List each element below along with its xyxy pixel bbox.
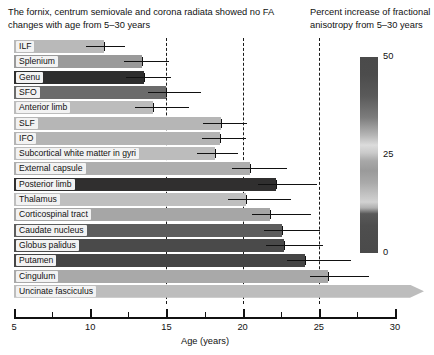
bar-label: SFO: [16, 87, 40, 98]
error-bar-cap: [142, 57, 143, 66]
x-tick-10: [90, 309, 92, 319]
error-bar: [202, 138, 246, 139]
error-bar: [197, 153, 238, 154]
x-tick-15: [166, 309, 168, 319]
error-bar-cap: [246, 195, 247, 204]
bar-row: IFO: [0, 132, 434, 145]
bar-label: Splenium: [16, 56, 58, 67]
bar-label: SLF: [16, 118, 38, 129]
error-bar-cap: [270, 210, 271, 219]
error-bar-cap: [144, 73, 145, 82]
bar-row: Thalamus: [0, 193, 434, 206]
bar-ifo: [14, 132, 220, 145]
colorbar-title: Percent increase of fractional anisotrop…: [310, 6, 432, 32]
bar-label: Putamen: [16, 255, 56, 266]
error-bar-cap: [104, 42, 105, 51]
error-bar: [266, 245, 324, 246]
bar-row: Corticospinal tract: [0, 208, 434, 221]
error-bar: [228, 199, 292, 200]
bar-label: Anterior limb: [16, 102, 70, 113]
x-minor-tick-7.5: [52, 312, 53, 319]
x-tick-label-5: 5: [11, 322, 16, 332]
bar-label: Cingulum: [16, 271, 58, 282]
bar-label: Thalamus: [16, 194, 60, 205]
bar-row: Anterior limb: [0, 101, 434, 114]
error-bar: [287, 260, 351, 261]
error-bar: [148, 92, 201, 93]
error-bar-cap: [250, 164, 251, 173]
error-bar-cap: [221, 119, 222, 128]
bar-row: Genu: [0, 71, 434, 84]
bar-label: ILF: [16, 41, 34, 52]
bar-label: External capsule: [16, 163, 86, 174]
error-bar: [86, 46, 125, 47]
bar-row: Caudate nucleus: [0, 224, 434, 237]
bar-putamen: [14, 254, 305, 267]
error-bar-cap: [166, 88, 167, 97]
bar-row: Posterior limb: [0, 178, 434, 191]
bar-label: Genu: [16, 72, 43, 83]
x-tick-label-25: 25: [314, 322, 324, 332]
bar-row: ILF: [0, 40, 434, 53]
figure-root: The fornix, centrum semiovale and corona…: [0, 0, 434, 355]
error-bar: [135, 107, 190, 108]
x-tick-20: [243, 309, 245, 319]
error-bar: [203, 123, 247, 124]
bar-label: Uncinate fasciculus: [16, 286, 96, 297]
plot-area: ILFSpleniumGenuSFOAnterior limbSLFIFOSub…: [0, 38, 434, 308]
bar-row: SFO: [0, 86, 434, 99]
bar-row: Globus palidus: [0, 239, 434, 252]
error-bar-cap: [282, 226, 283, 235]
bar-row: Putamen: [0, 254, 434, 267]
error-bar: [264, 230, 320, 231]
error-bar: [252, 214, 311, 215]
x-tick-label-15: 15: [161, 322, 171, 332]
x-axis-title: Age (years): [0, 336, 410, 346]
error-bar-cap: [328, 272, 329, 281]
x-minor-tick-12.5: [128, 312, 129, 319]
bar-row: Subcortical white matter in gyri: [0, 147, 434, 160]
bar-cingulum: [14, 270, 328, 283]
x-tick-30: [395, 309, 397, 319]
bar-row: SLF: [0, 117, 434, 130]
bar-row: External capsule: [0, 162, 434, 175]
bar-label: Caudate nucleus: [16, 225, 87, 236]
error-bar-cap: [153, 103, 154, 112]
x-minor-tick-17.5: [205, 312, 206, 319]
x-minor-tick-27.5: [357, 312, 358, 319]
x-tick-label-30: 30: [390, 322, 400, 332]
bar-label: Subcortical white matter in gyri: [16, 148, 139, 159]
error-bar: [126, 77, 171, 78]
x-tick-label-10: 10: [85, 322, 95, 332]
bar-label: Corticospinal tract: [16, 209, 91, 220]
x-tick-label-20: 20: [237, 322, 247, 332]
bar-label: Globus palidus: [16, 240, 79, 251]
x-tick-25: [319, 309, 321, 319]
x-tick-5: [14, 309, 16, 319]
bar-row: Splenium: [0, 55, 434, 68]
error-bar: [232, 168, 287, 169]
figure-caption: The fornix, centrum semiovale and corona…: [8, 6, 300, 32]
error-bar-cap: [284, 241, 285, 250]
error-bar: [258, 184, 317, 185]
error-bar: [124, 61, 169, 62]
bar-row: Cingulum: [0, 270, 434, 283]
bar-label: IFO: [16, 133, 36, 144]
error-bar-cap: [305, 256, 306, 265]
x-minor-tick-22.5: [281, 312, 282, 319]
error-bar: [310, 276, 369, 277]
bar-label: Posterior limb: [16, 179, 75, 190]
bar-row: Uncinate fasciculus: [0, 285, 434, 298]
error-bar-cap: [220, 134, 221, 143]
bar-slf: [14, 117, 221, 130]
error-bar-cap: [215, 149, 216, 158]
error-bar-cap: [276, 180, 277, 189]
